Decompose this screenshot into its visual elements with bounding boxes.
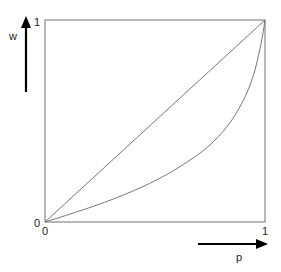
y-tick-min: 0 <box>34 217 40 229</box>
probability-weighting-chart: w 1 0 p 0 1 <box>0 0 281 272</box>
y-axis-label: w <box>8 30 17 42</box>
x-axis-label: p <box>236 251 242 263</box>
diagonal-line <box>45 20 265 222</box>
x-axis-arrow <box>198 239 268 249</box>
x-tick-min: 0 <box>42 225 48 237</box>
x-tick-max: 1 <box>262 225 268 237</box>
y-axis-arrow <box>21 16 31 92</box>
y-tick-max: 1 <box>34 16 40 28</box>
